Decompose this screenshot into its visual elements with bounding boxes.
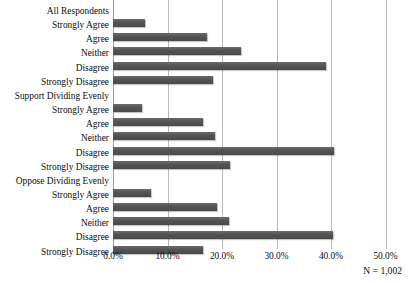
x-tick-label: 20.0%	[210, 250, 234, 262]
category-label: Disagree	[0, 232, 109, 242]
category-label: Strongly Agree	[0, 20, 109, 30]
category-label: Neither	[0, 133, 109, 143]
group-label-1: Support Dividing Evenly	[0, 91, 109, 101]
x-tick-label: 40.0%	[319, 250, 343, 262]
category-label: Strongly Disagree	[0, 162, 109, 172]
bar	[113, 231, 333, 239]
x-tick-label: 10.0%	[155, 250, 179, 262]
category-label: Strongly Agree	[0, 190, 109, 200]
bar	[113, 62, 326, 70]
x-axis-tick-labels: 0.0%10.0%20.0%30.0%40.0%50.0%	[113, 250, 408, 266]
bar	[113, 147, 334, 155]
bar	[113, 132, 215, 140]
bar-chart: All RespondentsStrongly AgreeAgreeNeithe…	[0, 0, 408, 283]
bar	[113, 104, 142, 112]
category-label: Neither	[0, 48, 109, 58]
bar	[113, 33, 207, 41]
bar	[113, 118, 203, 126]
category-labels-axis: All RespondentsStrongly AgreeAgreeNeithe…	[0, 0, 113, 255]
bar	[113, 203, 217, 211]
category-label: Disagree	[0, 63, 109, 73]
category-label: Agree	[0, 34, 109, 44]
bar	[113, 161, 230, 169]
gridline-300	[277, 0, 278, 249]
bar	[113, 19, 145, 27]
sample-size-annotation: N = 1,002	[363, 265, 402, 277]
category-label: Agree	[0, 119, 109, 129]
x-tick-label: 0.0%	[103, 250, 123, 262]
gridline-200	[222, 0, 223, 249]
category-label: Neither	[0, 218, 109, 228]
category-label: Disagree	[0, 148, 109, 158]
category-label: Agree	[0, 204, 109, 214]
bar	[113, 47, 241, 55]
bar	[113, 76, 213, 84]
bar	[113, 217, 229, 225]
group-label-2: Oppose Dividing Evenly	[0, 176, 109, 186]
plot-area	[113, 0, 408, 249]
group-label-0: All Respondents	[0, 6, 109, 16]
x-tick-label: 50.0%	[373, 250, 397, 262]
gridline-400	[331, 0, 332, 249]
category-label: Strongly Agree	[0, 105, 109, 115]
x-tick-label: 30.0%	[264, 250, 288, 262]
gridline-500	[386, 0, 387, 249]
bar	[113, 189, 151, 197]
category-label: Strongly Disagree	[0, 247, 109, 257]
category-label: Strongly Disagree	[0, 77, 109, 87]
